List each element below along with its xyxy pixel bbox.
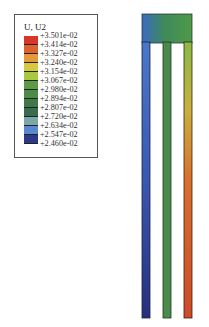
left-leg (142, 42, 150, 318)
middle-leg (163, 42, 171, 318)
right-leg (184, 42, 192, 318)
deformed-structure (0, 0, 209, 327)
crossbar (142, 14, 192, 43)
